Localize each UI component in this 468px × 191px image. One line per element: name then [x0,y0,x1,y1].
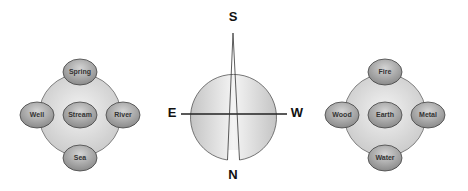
node-metal: Metal [411,102,445,128]
compass-label-right: W [291,105,304,120]
compass: S N E W [168,9,304,182]
water-sources-diagram: Spring Well Stream River Sea [20,59,140,171]
svg-text:Well: Well [30,111,44,118]
svg-text:Sea: Sea [74,154,87,161]
svg-text:River: River [114,111,132,118]
compass-disc [190,74,276,160]
node-stream: Stream [63,102,97,128]
compass-label-bottom: N [228,167,237,182]
node-well: Well [20,102,54,128]
node-spring: Spring [63,59,97,85]
svg-text:Earth: Earth [376,111,394,118]
svg-text:Stream: Stream [68,111,92,118]
node-river: River [106,102,140,128]
node-water: Water [368,145,402,171]
svg-text:Wood: Wood [332,111,351,118]
compass-label-top: S [229,9,238,24]
svg-text:Water: Water [375,154,394,161]
svg-text:Spring: Spring [69,68,91,76]
five-elements-diagram: Fire Wood Earth Metal Water [325,59,445,171]
compass-label-left: E [168,105,177,120]
svg-text:Metal: Metal [419,111,437,118]
svg-text:Fire: Fire [379,68,392,75]
compass-gap [228,150,240,162]
node-fire: Fire [368,59,402,85]
node-sea: Sea [63,145,97,171]
node-wood: Wood [325,102,359,128]
node-earth: Earth [368,102,402,128]
diagram-canvas: Spring Well Stream River Sea S N E W [0,0,468,191]
